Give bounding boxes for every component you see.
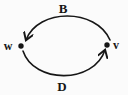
node-v-dot: [104, 42, 109, 47]
edge-b-label: B: [59, 1, 68, 16]
node-w-dot: [18, 43, 23, 48]
edge-b-arc-v-to-w: [26, 16, 110, 40]
node-w-label: w: [4, 39, 13, 53]
diagram-canvas: w v B D: [0, 0, 128, 95]
graph-diagram: w v B D: [0, 0, 128, 95]
edge-d-label: D: [57, 79, 66, 94]
node-v-label: v: [113, 38, 119, 52]
edge-d-arc-w-to-v: [23, 50, 105, 76]
